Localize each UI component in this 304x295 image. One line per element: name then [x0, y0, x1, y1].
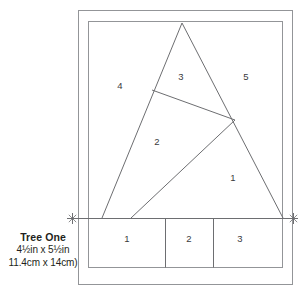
inner-frame [89, 22, 283, 268]
trunk-label-1: 1 [124, 233, 129, 244]
piece-label-5: 5 [243, 71, 248, 82]
seam-marker-left [67, 213, 77, 224]
seam-marker-right [288, 213, 298, 224]
triangle-right-edge [182, 23, 283, 218]
tree-block-diagram: 4 3 5 2 1 1 2 3 [0, 0, 304, 295]
triangle-left-edge [102, 23, 182, 218]
piece-label-2: 2 [154, 136, 159, 147]
trunk-label-3: 3 [237, 233, 242, 244]
seam-right-node-to-base [131, 120, 235, 218]
piece-label-1: 1 [230, 172, 235, 183]
piece-label-3: 3 [178, 71, 183, 82]
trunk-label-2: 2 [186, 233, 191, 244]
piece-label-4: 4 [117, 80, 122, 91]
diagram-page: Tree One 4½in x 5½in 11.4cm x 14cm) [0, 0, 304, 295]
seam-left-node-to-right-node [152, 90, 235, 120]
